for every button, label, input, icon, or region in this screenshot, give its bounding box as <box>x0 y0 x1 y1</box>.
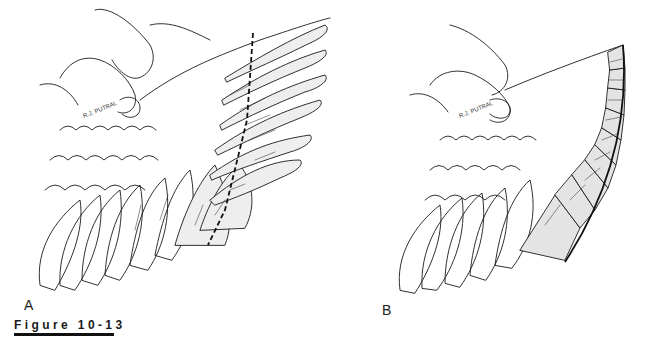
figure-panel-b: R.J. PUTRAL <box>340 0 645 300</box>
artist-signature-b: R.J. PUTRAL <box>458 100 494 119</box>
figure-panel-a: R.J. PUTRAL <box>0 0 340 300</box>
wing-illustration-b-icon: R.J. PUTRAL <box>340 0 645 300</box>
panel-label-b: B <box>382 302 391 318</box>
figure-caption: Figure 10-13 <box>14 318 126 332</box>
panel-label-a: A <box>24 297 33 313</box>
artist-signature: R.J. PUTRAL <box>82 100 118 119</box>
caption-underline <box>14 333 114 336</box>
wing-illustration-a-icon: R.J. PUTRAL <box>0 0 340 300</box>
